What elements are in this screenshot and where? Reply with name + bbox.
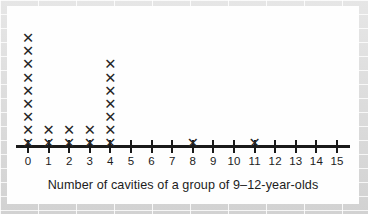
data-mark: ✕ <box>102 58 118 71</box>
data-mark: ✕ <box>20 32 36 45</box>
data-mark: ✕ <box>247 137 263 150</box>
x-axis-tick <box>295 140 297 153</box>
data-mark: ✕ <box>20 111 36 124</box>
data-mark: ✕ <box>20 98 36 111</box>
x-axis-tick <box>315 140 317 153</box>
data-mark: ✕ <box>61 137 77 150</box>
data-mark: ✕ <box>61 124 77 137</box>
data-mark: ✕ <box>102 85 118 98</box>
data-mark: ✕ <box>41 137 57 150</box>
data-mark: ✕ <box>20 58 36 71</box>
data-mark: ✕ <box>20 45 36 58</box>
data-mark: ✕ <box>41 124 57 137</box>
data-mark: ✕ <box>82 124 98 137</box>
x-axis-tick <box>171 140 173 153</box>
x-axis-tick <box>151 140 153 153</box>
figure-caption: Number of cavities of a group of 9–12-ye… <box>7 178 359 192</box>
data-mark: ✕ <box>20 72 36 85</box>
data-mark: ✕ <box>102 124 118 137</box>
data-mark: ✕ <box>185 137 201 150</box>
x-axis-tick <box>336 140 338 153</box>
data-mark: ✕ <box>20 137 36 150</box>
data-mark: ✕ <box>102 98 118 111</box>
x-axis-tick <box>274 140 276 153</box>
data-mark: ✕ <box>102 72 118 85</box>
dot-plot: 0123456789101112131415 ✕✕✕✕✕✕✕✕✕✕✕✕✕✕✕✕✕… <box>7 6 359 204</box>
figure-card: 0123456789101112131415 ✕✕✕✕✕✕✕✕✕✕✕✕✕✕✕✕✕… <box>7 6 359 204</box>
data-mark: ✕ <box>102 137 118 150</box>
data-mark: ✕ <box>20 124 36 137</box>
x-axis-tick <box>233 140 235 153</box>
x-axis-tick <box>212 140 214 153</box>
data-mark: ✕ <box>20 85 36 98</box>
data-mark: ✕ <box>102 111 118 124</box>
x-axis-tick <box>130 140 132 153</box>
data-mark: ✕ <box>82 137 98 150</box>
x-axis-tick-label: 15 <box>325 155 349 167</box>
